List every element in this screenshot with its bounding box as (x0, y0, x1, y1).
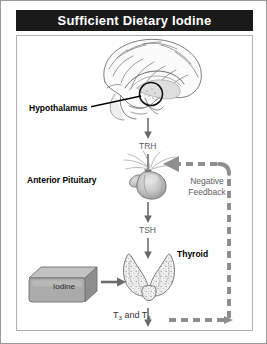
hormones-label: T3 and T4 (113, 311, 151, 320)
hormones-conjunction: and T (122, 310, 147, 320)
hypothalamus-label: Hypothalamus (29, 104, 88, 113)
arrow-down-icon-pituitary-to-tsh (141, 202, 155, 224)
hormones-t4-subscript: 4 (147, 314, 150, 321)
figure-title-bar: Sufficient Dietary Iodine (16, 10, 253, 31)
arrow-down-icon-hypothalamus-to-trh (141, 118, 155, 140)
tsh-label: TSH (139, 225, 156, 236)
brain-sagittal-icon (91, 36, 209, 122)
negative-feedback-line-1: Negative (185, 176, 229, 187)
arrow-right-icon-iodine-to-thyroid (101, 275, 127, 293)
thyroid-label: Thyroid (177, 250, 208, 259)
anterior-pituitary-label: Anterior Pituitary (27, 176, 96, 185)
diagram-panel: Hypothalamus TRH (16, 35, 253, 331)
pituitary-gland-icon (115, 148, 187, 206)
negative-feedback-label: Negative Feedback (185, 176, 229, 197)
negative-feedback-line-2: Feedback (185, 187, 229, 198)
figure-title: Sufficient Dietary Iodine (58, 13, 212, 28)
iodine-block-icon: Iodine (23, 262, 105, 310)
figure-container: Sufficient Dietary Iodine (0, 0, 267, 344)
